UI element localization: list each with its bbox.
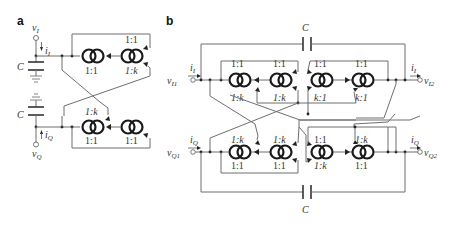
current-mirror-a-bottom-2: 1:1 [122,121,143,147]
svg-text:1:k: 1:k [231,134,244,145]
svg-text:1:1: 1:1 [314,58,327,69]
label-capacitor-b-top: C [302,22,309,33]
panel-a: a vI iI C C iQ vQ [17,14,150,161]
label-iQ-out: iQ [411,134,419,147]
label-iQ: iQ [45,129,53,142]
panel-b: b C vI1 iI 1:1 1:k 1:1 1:k [166,14,438,215]
svg-text:1:1: 1:1 [85,135,98,146]
svg-text:1:1: 1:1 [231,160,244,171]
current-mirror-b-top-2: 1:1 1:k [271,58,292,103]
current-mirror-a-top-2: 1:1 1:k [122,34,143,76]
label-iQ-in: iQ [190,134,198,147]
svg-text:1:1: 1:1 [125,34,138,45]
svg-text:k:1: k:1 [314,92,327,103]
terminal-vI [34,36,39,41]
current-mirror-b-top-3: 1:1 k:1 [312,58,333,103]
svg-text:k:1: k:1 [355,92,368,103]
circuit-figure: a vI iI C C iQ vQ [0,0,462,226]
svg-text:1:k: 1:k [314,160,327,171]
current-mirror-b-bottom-1: 1:k 1:1 [230,134,251,171]
current-mirror-a-top-1: 1:1 [83,50,104,77]
terminal-vQ [34,142,39,147]
label-vI2: vI2 [424,75,435,88]
label-vI1: vI1 [167,75,177,88]
current-mirror-b-bottom-2: 1:k 1:1 [271,134,292,171]
label-capacitor-b-bottom: C [302,204,309,215]
label-capacitor-top: C [17,61,24,72]
label-vI: vI [32,22,39,35]
label-capacitor-bottom: C [17,109,24,120]
svg-text:1:1: 1:1 [355,58,368,69]
label-vQ1: vQ1 [167,147,180,160]
current-mirror-b-bottom-3: 1:1 1:k [312,134,333,171]
panel-b-label: b [166,14,173,28]
svg-text:1:1: 1:1 [355,160,368,171]
svg-text:1:k: 1:k [85,106,98,117]
label-vQ2: vQ2 [424,147,438,160]
label-iI-in: iI [190,62,196,75]
svg-text:1:1: 1:1 [273,58,286,69]
current-mirror-b-top-4: 1:1 k:1 [353,58,374,103]
label-vQ: vQ [32,148,42,161]
current-mirror-b-bottom-4: 1:k 1:1 [353,134,374,171]
svg-text:1:1: 1:1 [231,58,244,69]
panel-a-label: a [17,14,24,28]
label-iI-out: iI [411,62,417,75]
current-mirror-a-bottom-1: 1:k 1:1 [83,106,104,146]
svg-text:1:k: 1:k [273,92,286,103]
svg-text:1:k: 1:k [273,134,286,145]
svg-text:1:1: 1:1 [125,135,138,146]
svg-text:1:1: 1:1 [314,134,327,145]
svg-text:1:1: 1:1 [273,160,286,171]
svg-text:1:k: 1:k [125,65,138,76]
svg-text:1:1: 1:1 [85,65,98,76]
